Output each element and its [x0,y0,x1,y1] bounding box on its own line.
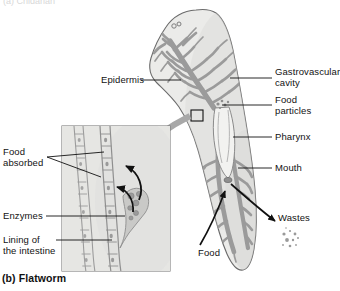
label-food: Food [198,247,220,258]
figure-caption: (b) Flatworm [2,272,66,284]
label-enzymes: Enzymes [3,210,43,221]
label-food-particles-line2: particles [275,105,311,116]
label-pharynx: Pharynx [275,131,311,142]
intestinal-lining-inset [62,120,185,280]
label-food-particles-line1: Food [275,94,297,105]
label-lining-line1: Lining of [3,234,40,245]
wastes-particles [282,227,299,247]
mouth-opening [224,177,232,182]
label-food-absorbed-line1: Food [3,146,25,157]
label-mouth: Mouth [275,162,302,173]
label-gastrovascular-cavity-line1: Gastrovascular [275,66,340,77]
label-gastrovascular-cavity-line2: cavity [275,77,300,88]
label-lining-line2: the intestine [3,245,55,256]
label-epidermis: Epidermis [101,74,144,85]
label-wastes: Wastes [278,212,310,223]
label-food-absorbed-line2: absorbed [3,157,43,168]
